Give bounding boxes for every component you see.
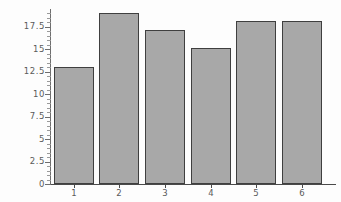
- y-axis-tick-label: 0: [0, 180, 45, 189]
- x-axis-line: [50, 184, 336, 185]
- x-axis-tick-label: 3: [153, 189, 177, 198]
- x-axis-tick-label: 4: [199, 189, 223, 198]
- y-axis-tick-label: 5: [0, 135, 45, 144]
- bar: [191, 48, 231, 184]
- bar: [236, 21, 276, 184]
- bars-layer: [51, 8, 336, 184]
- y-axis-tick-label: 7.5: [0, 112, 45, 121]
- y-axis-tick-label: 17.5: [0, 22, 45, 31]
- x-axis-tick-label: 5: [244, 189, 268, 198]
- bar: [282, 21, 322, 184]
- x-axis-tick-label: 2: [107, 189, 131, 198]
- bar: [145, 30, 185, 184]
- bar: [99, 13, 139, 184]
- x-axis-tick-label: 6: [290, 189, 314, 198]
- bar-chart: 02.557.51012.51517.5 123456: [0, 0, 341, 202]
- bar: [54, 67, 94, 184]
- y-axis-tick-label: 10: [0, 90, 45, 99]
- x-axis-tick-label: 1: [62, 189, 86, 198]
- y-axis-tick-label: 12.5: [0, 67, 45, 76]
- y-axis-tick-label: 2.5: [0, 157, 45, 166]
- y-axis-tick-label: 15: [0, 45, 45, 54]
- y-axis-tick: [45, 184, 51, 185]
